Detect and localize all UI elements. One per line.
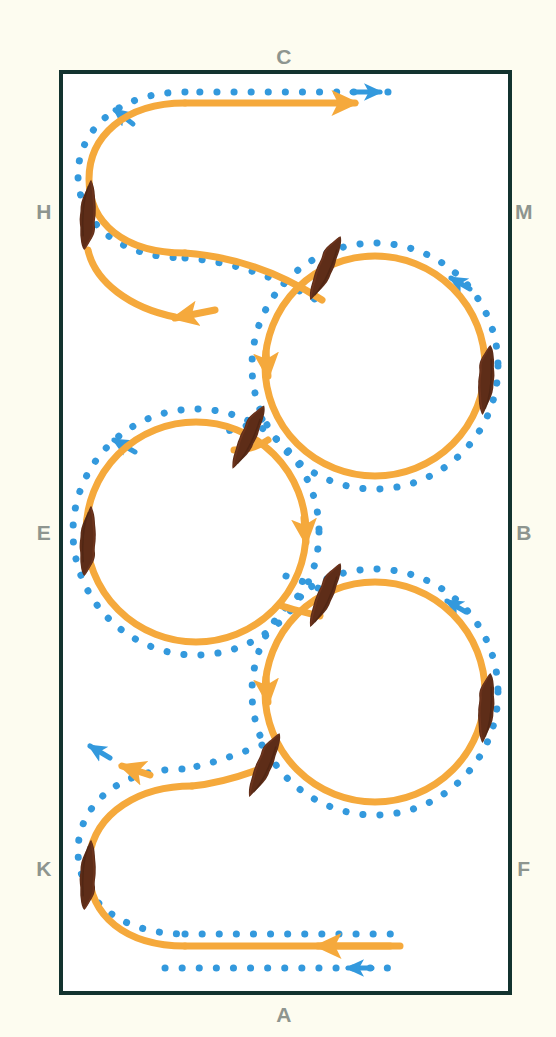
track-circle-3-arrow: [266, 678, 268, 702]
arena-rectangle: [61, 72, 510, 993]
arena-marker-M: M: [515, 200, 533, 223]
arena-marker-F: F: [517, 857, 530, 880]
arena-marker-K: K: [36, 857, 52, 880]
arena-marker-B: B: [516, 521, 532, 544]
dressage-arena-diagram: C H M E B K F A: [0, 0, 556, 1037]
arena-marker-A: A: [276, 1003, 292, 1026]
track-circle-1-arrow: [266, 352, 268, 376]
arena-marker-H: H: [36, 200, 52, 223]
arena-marker-C: C: [276, 45, 292, 68]
arena-svg: C H M E B K F A: [0, 0, 556, 1037]
track-circle-2-arrow: [304, 518, 306, 542]
arena-marker-E: E: [37, 521, 52, 544]
